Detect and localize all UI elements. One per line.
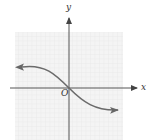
x-axis-label: x xyxy=(141,83,146,92)
graph-canvas xyxy=(0,0,152,140)
y-axis-label: y xyxy=(66,3,71,12)
origin-label: O xyxy=(61,89,68,98)
